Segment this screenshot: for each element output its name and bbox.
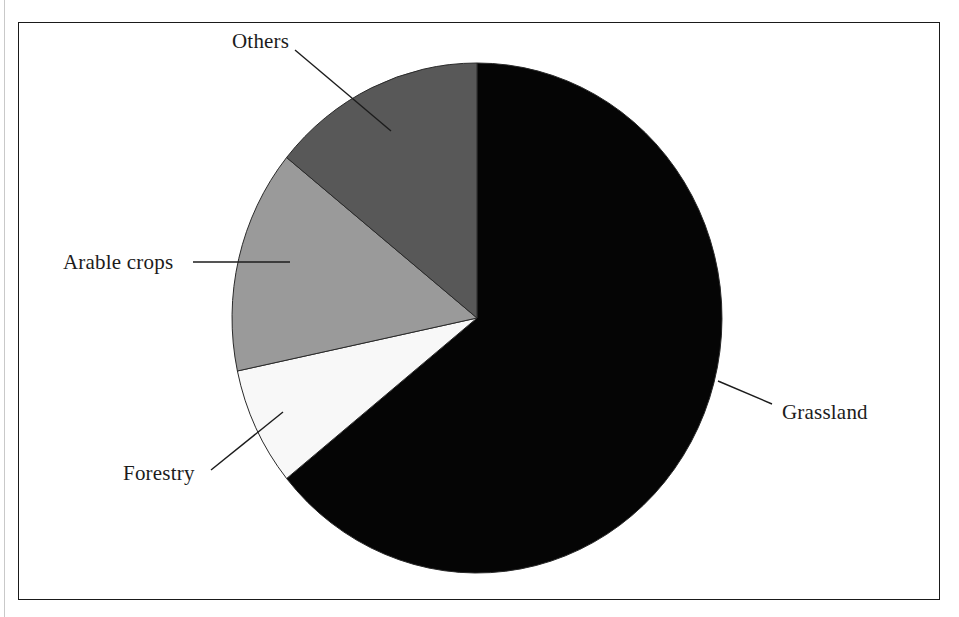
pie-label-arable-crops: Arable crops: [63, 250, 173, 275]
pie-label-others: Others: [232, 29, 289, 54]
pie-label-grassland: Grassland: [782, 400, 868, 425]
leader-line-grassland: [718, 381, 772, 404]
pie-chart: [0, 0, 959, 617]
pie-label-forestry: Forestry: [123, 461, 195, 486]
figure-root: Others Arable crops Forestry Grassland: [0, 0, 959, 617]
